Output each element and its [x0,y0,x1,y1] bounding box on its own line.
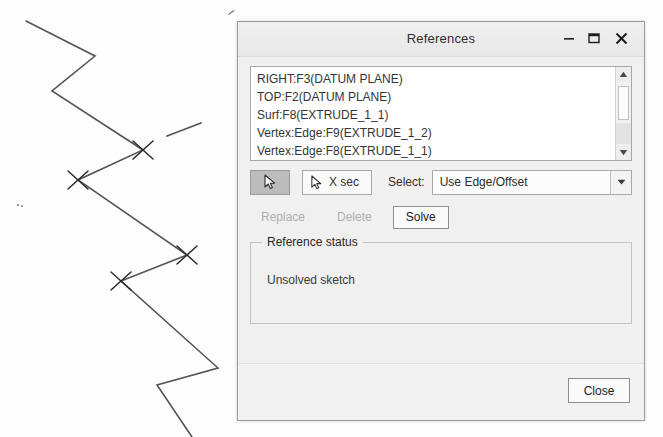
scrollbar-track[interactable] [616,123,631,144]
xsec-button-label: X sec [329,175,359,189]
references-list[interactable]: RIGHT:F3(DATUM PLANE) TOP:F2(DATUM PLANE… [251,67,615,160]
list-item[interactable]: Surf:F8(EXTRUDE_1_1) [257,106,615,124]
dialog-footer: Close [238,363,644,420]
solve-button[interactable]: Solve [393,206,449,229]
cursor-arrow-icon [263,174,277,190]
list-item[interactable]: Vertex:Edge:F9(EXTRUDE_1_2) [257,124,615,142]
vertex-marker-x[interactable] [133,141,153,159]
select-mode-value: Use Edge/Offset [433,175,610,189]
references-dialog[interactable]: References RIGHT:F3(DATUM PLANE) TOP:F [237,21,645,421]
vertex-marker-x[interactable] [68,171,88,189]
dialog-title-bar[interactable]: References [238,22,644,57]
references-list-box[interactable]: RIGHT:F3(DATUM PLANE) TOP:F2(DATUM PLANE… [250,66,632,161]
reference-status-group: Reference status Unsolved sketch [250,242,632,324]
reference-status-legend: Reference status [262,235,363,249]
scrollbar-thumb[interactable] [618,86,629,120]
selection-toolbar: X sec Select: Use Edge/Offset [250,169,632,195]
dialog-body: RIGHT:F3(DATUM PLANE) TOP:F2(DATUM PLANE… [238,57,644,363]
delete-button[interactable]: Delete [326,206,383,229]
close-button[interactable]: Close [568,378,630,403]
minimize-icon[interactable] [560,29,578,47]
sketch-detached-segment[interactable] [167,123,201,136]
select-arrow-button[interactable] [250,170,290,195]
action-button-row: Replace Delete Solve [250,205,632,229]
vertex-marker-x[interactable] [111,272,131,290]
reference-status-message: Unsolved sketch [267,273,355,287]
sketch-specks [17,10,235,207]
cursor-arrow-icon [310,175,323,190]
scroll-down-icon[interactable] [616,145,631,160]
chevron-down-icon[interactable] [610,171,631,194]
select-mode-dropdown[interactable]: Use Edge/Offset [432,170,632,195]
scroll-up-icon[interactable] [616,67,631,82]
close-icon[interactable] [612,29,630,47]
list-scrollbar[interactable] [615,67,631,160]
select-label: Select: [388,175,425,189]
list-item[interactable]: Vertex:Edge:F8(EXTRUDE_1_1) [257,142,615,160]
list-item[interactable]: RIGHT:F3(DATUM PLANE) [257,70,615,88]
vertex-marker-x[interactable] [177,246,197,264]
xsec-button[interactable]: X sec [302,170,372,195]
replace-button[interactable]: Replace [250,206,316,229]
page-title: References [238,31,644,46]
sketch-polyline[interactable] [26,21,218,437]
list-item[interactable]: TOP:F2(DATUM PLANE) [257,88,615,106]
sketch-vertex-markers [68,141,197,290]
maximize-icon[interactable] [585,29,603,47]
